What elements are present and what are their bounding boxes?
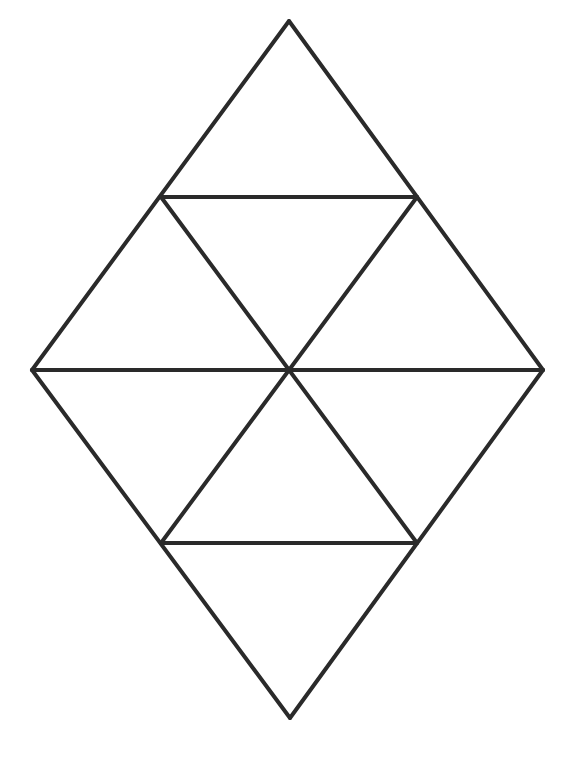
rhombus-triangle-diagram	[0, 0, 571, 768]
diagram-canvas	[0, 0, 571, 768]
diagram-segments	[32, 21, 543, 718]
